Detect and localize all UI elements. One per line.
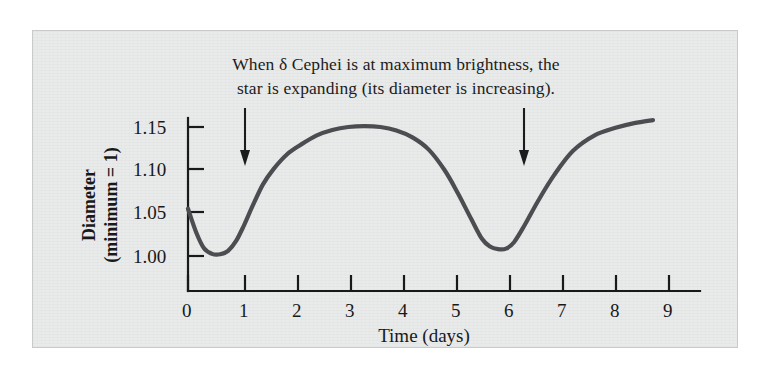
x-tick-label-2: 2 [292, 300, 302, 321]
y-axis-tick-labels: 1.15 1.10 1.05 1.00 [133, 117, 166, 267]
x-axis-tick-labels: 0 1 2 3 4 5 6 7 8 9 [182, 300, 673, 321]
y-tick-label-1-15: 1.15 [133, 117, 166, 138]
caption-line-1: When δ Cephei is at maximum brightness, … [232, 54, 560, 74]
cepheid-diameter-chart: When δ Cephei is at maximum brightness, … [0, 0, 767, 377]
x-tick-label-6: 6 [504, 300, 514, 321]
y-tick-label-1-10: 1.10 [133, 159, 166, 180]
x-axis-ticks [188, 275, 669, 291]
y-tick-label-1-05: 1.05 [133, 202, 166, 223]
x-tick-label-1: 1 [239, 300, 249, 321]
caption-line-2: star is expanding (its diameter is incre… [237, 78, 555, 98]
x-tick-label-4: 4 [398, 300, 408, 321]
arrow-max-brightness-left [240, 108, 250, 166]
y-axis-title-line-1: Diameter [79, 169, 99, 241]
x-tick-label-5: 5 [451, 300, 461, 321]
x-tick-label-8: 8 [610, 300, 620, 321]
x-tick-label-7: 7 [557, 300, 567, 321]
figure-root: When δ Cephei is at maximum brightness, … [0, 0, 767, 377]
y-tick-label-1-00: 1.00 [133, 246, 166, 267]
x-axis-title: Time (days) [378, 325, 470, 347]
y-axis-title: Diameter (minimum = 1) [79, 147, 122, 262]
y-axis-title-line-2: (minimum = 1) [101, 147, 122, 262]
x-tick-label-3: 3 [345, 300, 355, 321]
diameter-curve [188, 120, 653, 255]
x-tick-label-0: 0 [182, 300, 192, 321]
arrow-max-brightness-right [519, 108, 529, 166]
x-tick-label-9: 9 [663, 300, 673, 321]
